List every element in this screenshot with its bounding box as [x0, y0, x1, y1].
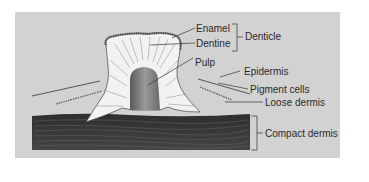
pulp-cavity [130, 67, 160, 110]
label-loose-dermis: Loose dermis [265, 97, 325, 108]
denticle-shape [86, 33, 200, 122]
compact-dermis-bracket [251, 116, 263, 150]
label-dentine: Dentine [196, 38, 230, 49]
compact-dermis-block [32, 114, 250, 150]
denticle-bracket [232, 24, 243, 51]
label-enamel: Enamel [196, 23, 230, 34]
label-pulp: Pulp [195, 57, 215, 68]
label-pigment-cells: Pigment cells [250, 84, 309, 95]
label-epidermis: Epidermis [244, 66, 288, 77]
denticle-illustration [0, 0, 369, 182]
label-compact-dermis: Compact dermis [265, 128, 338, 139]
label-denticle: Denticle [245, 31, 281, 42]
